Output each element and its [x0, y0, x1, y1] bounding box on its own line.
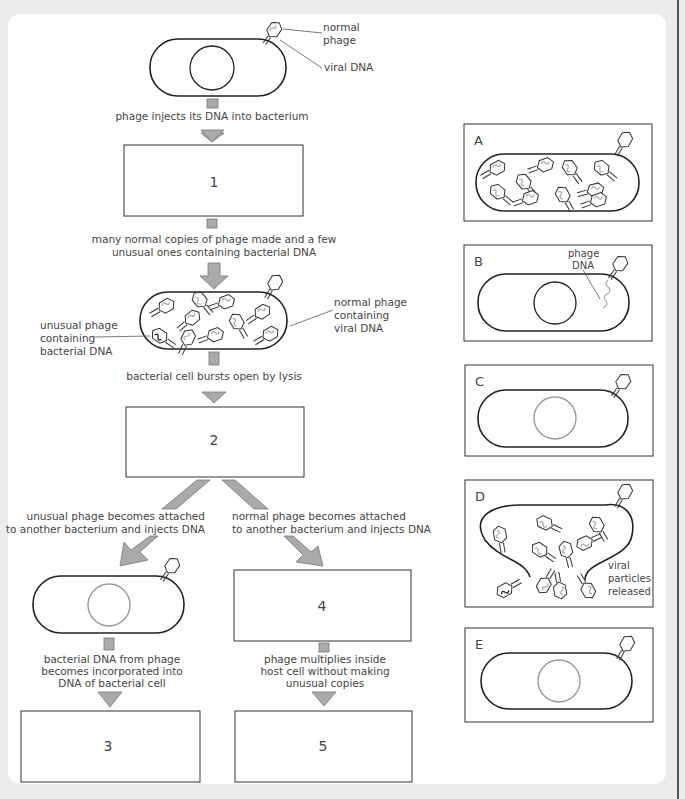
step-normal-attach-line1: normal phage becomes attached: [232, 510, 406, 522]
arrow-multiplies: [312, 692, 336, 706]
arrow-diag-left: [120, 536, 158, 566]
label-phage-dna: phage: [568, 248, 599, 259]
svg-text:containing: containing: [40, 332, 95, 344]
svg-text:bacterial DNA: bacterial DNA: [40, 345, 113, 357]
arrow-diag-right-top: [222, 480, 268, 509]
label-viral-dna: viral DNA: [324, 61, 374, 73]
box-2-label: 2: [210, 432, 219, 448]
unusual-phage-icon: [149, 326, 178, 351]
arrow-stem-copies: [207, 219, 217, 228]
step-copies-line1: many normal copies of phage made and a f…: [92, 233, 337, 245]
box-1-label: 1: [210, 174, 219, 190]
label-viral-particles-released: viral: [608, 560, 630, 571]
arrow-stem-lysis: [209, 352, 219, 365]
svg-text:phage: phage: [323, 34, 356, 46]
phage-transduction-diagram: normal phage viral DNA phage injects its…: [0, 0, 685, 799]
step-lysis: bacterial cell bursts open by lysis: [126, 370, 302, 382]
svg-text:released: released: [608, 586, 651, 597]
svg-text:particles: particles: [608, 573, 651, 584]
option-D-letter: D: [475, 489, 485, 504]
option-B[interactable]: B phage DNA: [464, 245, 652, 341]
step-multiplies-line1: phage multiplies inside: [264, 653, 386, 665]
svg-text:host cell without making: host cell without making: [260, 665, 389, 677]
option-C[interactable]: C: [465, 365, 653, 456]
step-incorporated-line1: bacterial DNA from phage: [44, 653, 181, 665]
svg-text:viral DNA: viral DNA: [334, 322, 384, 334]
option-C-letter: C: [475, 374, 484, 389]
top-bacterium: normal phage viral DNA: [150, 19, 374, 96]
option-E[interactable]: E: [465, 628, 653, 722]
step-unusual-attach-line1: unusual phage becomes attached: [27, 510, 205, 522]
box-5-label: 5: [319, 738, 328, 754]
option-A[interactable]: A: [464, 124, 652, 221]
label-normal-phage: normal: [323, 21, 360, 33]
box-4-label: 4: [318, 598, 327, 614]
svg-text:DNA of bacterial cell: DNA of bacterial cell: [58, 677, 165, 689]
step-inject: phage injects its DNA into bacterium: [115, 110, 308, 122]
step-unusual-attach-line2: to another bacterium and injects DNA: [6, 523, 206, 535]
recipient-bacterium: [33, 555, 184, 633]
arrow-copies: [200, 263, 228, 289]
option-D[interactable]: D viral particles released: [465, 480, 653, 607]
option-E-letter: E: [475, 637, 483, 652]
arrow-diag-left-top: [162, 480, 210, 509]
label-normal-phage-viral-dna: normal phage: [334, 296, 407, 308]
arrow-stem-multiplies: [319, 643, 329, 652]
label-unusual-phage-bacterial-dna: unusual phage: [40, 319, 118, 331]
step-normal-attach-line2: to another bacterium and injects DNA: [232, 523, 432, 535]
option-A-letter: A: [474, 133, 483, 148]
arrow-lysis: [202, 392, 226, 403]
svg-text:unusual copies: unusual copies: [286, 677, 365, 689]
svg-text:DNA: DNA: [572, 260, 594, 271]
arrow-incorporated: [98, 692, 122, 707]
svg-text:containing: containing: [334, 309, 389, 321]
arrow-stem-incorporated: [104, 638, 114, 650]
arrow-diag-right: [284, 536, 323, 566]
box-3-label: 3: [104, 738, 113, 754]
option-B-letter: B: [474, 254, 483, 269]
step-copies-line2: unusual ones containing bacterial DNA: [112, 246, 317, 258]
svg-text:becomes incorporated into: becomes incorporated into: [41, 665, 182, 677]
